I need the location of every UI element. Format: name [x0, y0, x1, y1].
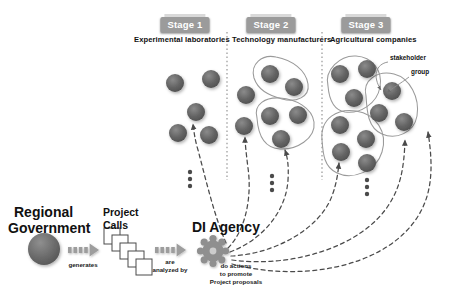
stakeholder-node [285, 78, 303, 96]
stakeholder-node [331, 65, 349, 83]
stakeholder-group-callout [376, 62, 409, 93]
stakeholder-node [235, 117, 253, 135]
regional-government-node [28, 233, 60, 265]
stakeholder-node [395, 113, 413, 131]
stakeholder-node [237, 86, 255, 104]
analyzed-by-caption-line2: analyzed by [152, 266, 187, 274]
stakeholder-node [345, 89, 363, 107]
generates-arrow-icon [68, 244, 99, 257]
stage-badge-1: Stage 1 [160, 17, 209, 33]
stakeholder-node [370, 104, 388, 122]
stakeholder-node [202, 70, 220, 88]
project-calls-stack [104, 228, 152, 275]
stakeholder-node [332, 143, 350, 161]
generates-caption: generates [68, 261, 97, 269]
influence-curve-stage3-groupA [231, 163, 339, 256]
stakeholder-node [261, 107, 279, 125]
stakeholder-node [358, 60, 376, 78]
stakeholder-group-label-line2: group [411, 68, 429, 75]
project-calls-label-line1: Project [103, 206, 139, 218]
stage-dividers [227, 32, 322, 180]
stakeholder-node [169, 124, 187, 142]
influence-curve-stage2-group [230, 150, 288, 252]
project-call-page [136, 259, 152, 275]
stage-badge-3: Stage 3 [341, 17, 390, 33]
stakeholder-node [261, 65, 279, 83]
vertical-ellipsis-icon [365, 178, 369, 196]
stage-title-3: Agricultural companies [330, 35, 417, 44]
stakeholder-node [358, 154, 376, 172]
stakeholder-node [289, 106, 307, 124]
stakeholder-group-label-line1: stakeholder [390, 54, 426, 61]
stakeholder-node [357, 130, 375, 148]
stage-1-nodes [166, 70, 220, 144]
regional-government-label-line2: Government [8, 221, 90, 237]
stage-ellipses [188, 170, 369, 196]
stage-2-nodes [235, 65, 307, 148]
vertical-ellipsis-icon [188, 170, 192, 188]
stakeholder-node [331, 116, 349, 134]
vertical-ellipsis-icon [270, 174, 274, 192]
stakeholder-node [272, 130, 290, 148]
di-agency-label: DI Agency [192, 220, 260, 236]
stakeholder-node [166, 74, 184, 92]
diagram-canvas [0, 0, 451, 303]
agency-action-caption-line3: Project proposals [210, 278, 262, 286]
stage-badge-2: Stage 2 [246, 17, 295, 33]
regional-government-label-line1: Regional [14, 205, 73, 221]
stakeholder-node [187, 103, 205, 121]
project-calls-label-line2: Calls [103, 219, 128, 231]
stage-title-2: Technology manufacturers [232, 35, 331, 44]
analyzed-by-arrow-icon [155, 244, 186, 257]
stage-title-1: Experimental laboratories [134, 35, 230, 44]
stakeholder-node [200, 126, 218, 144]
